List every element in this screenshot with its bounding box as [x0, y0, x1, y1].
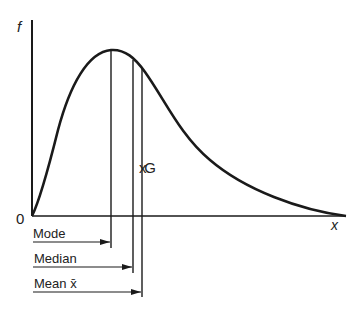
density-curve: [32, 50, 346, 216]
centroid-label: xG: [139, 159, 156, 176]
x-axis-label: x: [330, 217, 339, 233]
y-axis-label: f: [17, 18, 23, 35]
mode-label: Mode: [33, 226, 66, 241]
origin-label: 0: [16, 210, 24, 227]
median-label: Median: [34, 251, 77, 266]
skewed-distribution-diagram: f 0 x xG Mode Median Mean x̄: [0, 0, 363, 311]
mean-label: Mean x̄: [34, 276, 77, 291]
